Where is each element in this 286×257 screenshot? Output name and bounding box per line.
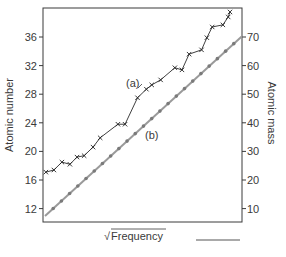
right-tick-label: 20: [247, 174, 259, 186]
left-tick-label: 20: [25, 145, 37, 157]
series-b-marker: [117, 147, 121, 151]
right-tick-label: 60: [247, 60, 259, 72]
series-b-line: [45, 36, 242, 216]
series-b-marker: [76, 184, 80, 188]
series-b-marker: [158, 109, 162, 113]
left-tick-label: 36: [25, 31, 37, 43]
series-a-marker: [135, 96, 139, 100]
right-tick-label: 40: [247, 117, 259, 129]
series-b-marker: [224, 49, 228, 53]
series-a-marker: [228, 10, 232, 14]
series-a-marker: [98, 136, 102, 140]
series-b-marker: [207, 64, 211, 68]
series-b-marker: [84, 177, 88, 181]
series-b-marker: [142, 124, 146, 128]
left-axis: 12162024283236: [25, 31, 43, 215]
x-axis-title-text: Frequency: [111, 230, 163, 242]
left-tick-label: 24: [25, 117, 37, 129]
x-axis-title: √ Frequency: [104, 229, 166, 242]
series-b-marker: [175, 94, 179, 98]
series-b-marker: [216, 57, 220, 61]
series-b-marker: [199, 72, 203, 76]
left-tick-label: 16: [25, 174, 37, 186]
series-a-marker: [187, 52, 191, 56]
series-b-marker: [183, 87, 187, 91]
series-a-line: [44, 10, 233, 175]
left-axis-title: Atomic number: [3, 78, 15, 152]
right-tick-label: 30: [247, 145, 259, 157]
left-tick-label: 32: [25, 60, 37, 72]
right-tick-label: 10: [247, 203, 259, 215]
series-b-marker: [92, 169, 96, 173]
moseley-chart: 12162024283236 10203040506070 (a) (b) At…: [0, 0, 286, 257]
left-tick-label: 12: [25, 203, 37, 215]
series-a-marker: [199, 48, 203, 52]
series-a-path: [46, 12, 230, 172]
series-b-marker: [133, 132, 137, 136]
series-b-marker: [60, 199, 64, 203]
series-b-marker: [51, 207, 55, 211]
series-a-marker: [150, 83, 154, 87]
series-b-marker: [232, 42, 236, 46]
series-b-marker: [101, 162, 105, 166]
series-b-marker: [125, 139, 129, 143]
series-a-marker: [226, 15, 230, 19]
series-a-marker: [91, 145, 95, 149]
series-b-marker: [109, 154, 113, 158]
series-a-marker: [158, 78, 162, 82]
series-b-marker: [191, 79, 195, 83]
series-a-marker: [144, 87, 148, 91]
series-b-marker: [166, 102, 170, 106]
series-b-marker: [150, 117, 154, 121]
label-a: (a): [126, 77, 139, 89]
right-tick-label: 50: [247, 88, 259, 100]
label-b: (b): [145, 129, 158, 141]
left-tick-label: 28: [25, 88, 37, 100]
right-axis: 10203040506070: [242, 31, 259, 215]
right-axis-title: Atomic mass: [266, 82, 278, 145]
series-a-marker: [205, 36, 209, 40]
right-tick-label: 70: [247, 31, 259, 43]
series-b-marker: [68, 192, 72, 196]
radical-sign: √: [104, 230, 111, 242]
